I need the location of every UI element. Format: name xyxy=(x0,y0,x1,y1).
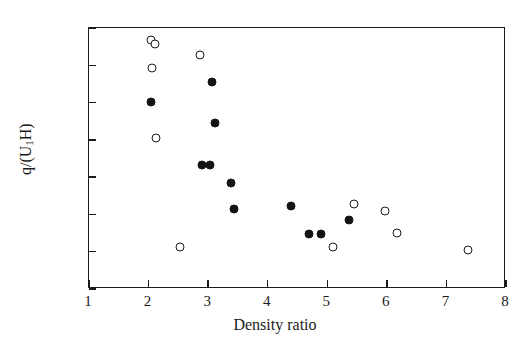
y-axis-title-subscript: 1 xyxy=(23,140,35,146)
x-axis-title-text: Density ratio xyxy=(209,316,316,333)
y-axis-tick-label-layer: 0.0400.0350.0300.0250.0200.0150.0100.005 xyxy=(0,0,526,358)
x-axis-title: Density ratio xyxy=(0,316,526,334)
scatter-chart-figure: 12345678 0.0400.0350.0300.0250.0200.0150… xyxy=(0,0,526,358)
y-axis-title: q/(U1H) xyxy=(17,69,35,229)
